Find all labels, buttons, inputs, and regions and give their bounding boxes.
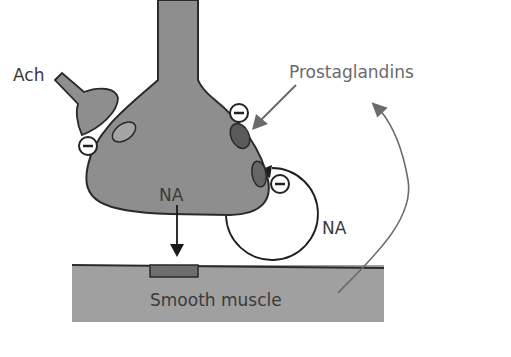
sympathetic-neuroeffector-diagram: Ach Prostaglandins NA NA Smooth muscle	[0, 0, 511, 357]
inhibition-symbol-prostaglandin	[230, 104, 248, 122]
muscle-adrenoceptor	[150, 265, 198, 277]
prostaglandin-arrow-shaft	[260, 85, 296, 121]
na-release-arrowhead	[170, 244, 184, 257]
ach-label: Ach	[13, 65, 44, 85]
inhibition-symbol-na	[271, 175, 289, 193]
smooth-muscle-label: Smooth muscle	[150, 290, 282, 310]
inhibition-symbol-ach	[79, 137, 97, 155]
prostaglandins-label: Prostaglandins	[289, 62, 414, 82]
na-release-label: NA	[159, 185, 184, 205]
na-feedback-label: NA	[322, 218, 347, 238]
prostaglandin-release-arrowhead	[372, 100, 390, 118]
